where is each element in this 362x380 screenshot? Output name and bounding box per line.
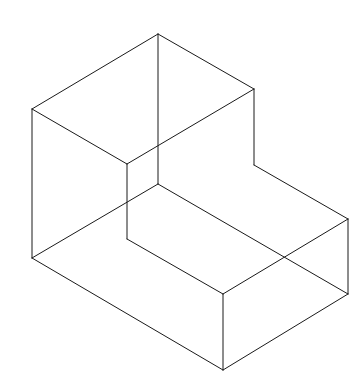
edge-EI [254, 165, 348, 219]
edge-FK [158, 184, 348, 294]
edge-AB [32, 34, 158, 109]
edge-AC [158, 34, 254, 89]
edge-KL [223, 294, 348, 370]
diagram-canvas [0, 0, 362, 380]
edge-HJ [127, 239, 223, 294]
l-block-wireframe [0, 0, 362, 380]
edge-FG [32, 184, 158, 258]
edge-CD [127, 89, 254, 164]
edge-BD [32, 109, 127, 164]
edge-GL [32, 258, 223, 370]
